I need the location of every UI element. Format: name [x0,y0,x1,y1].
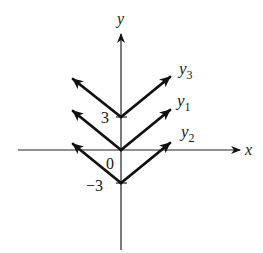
curve-label-y1: y1 [175,91,191,114]
tick-label-0: 0 [106,155,114,172]
curve-label-y3: y3 [177,59,193,82]
x-axis-label: x [244,141,252,158]
curve-label-y2: y2 [179,122,195,145]
tick-label-3: 3 [101,109,109,126]
y-axis-label: y [115,10,125,28]
absolute-value-graph: y x 3 0 −3 y3 y1 y2 [0,0,263,253]
tick-label-neg3: −3 [86,177,103,194]
